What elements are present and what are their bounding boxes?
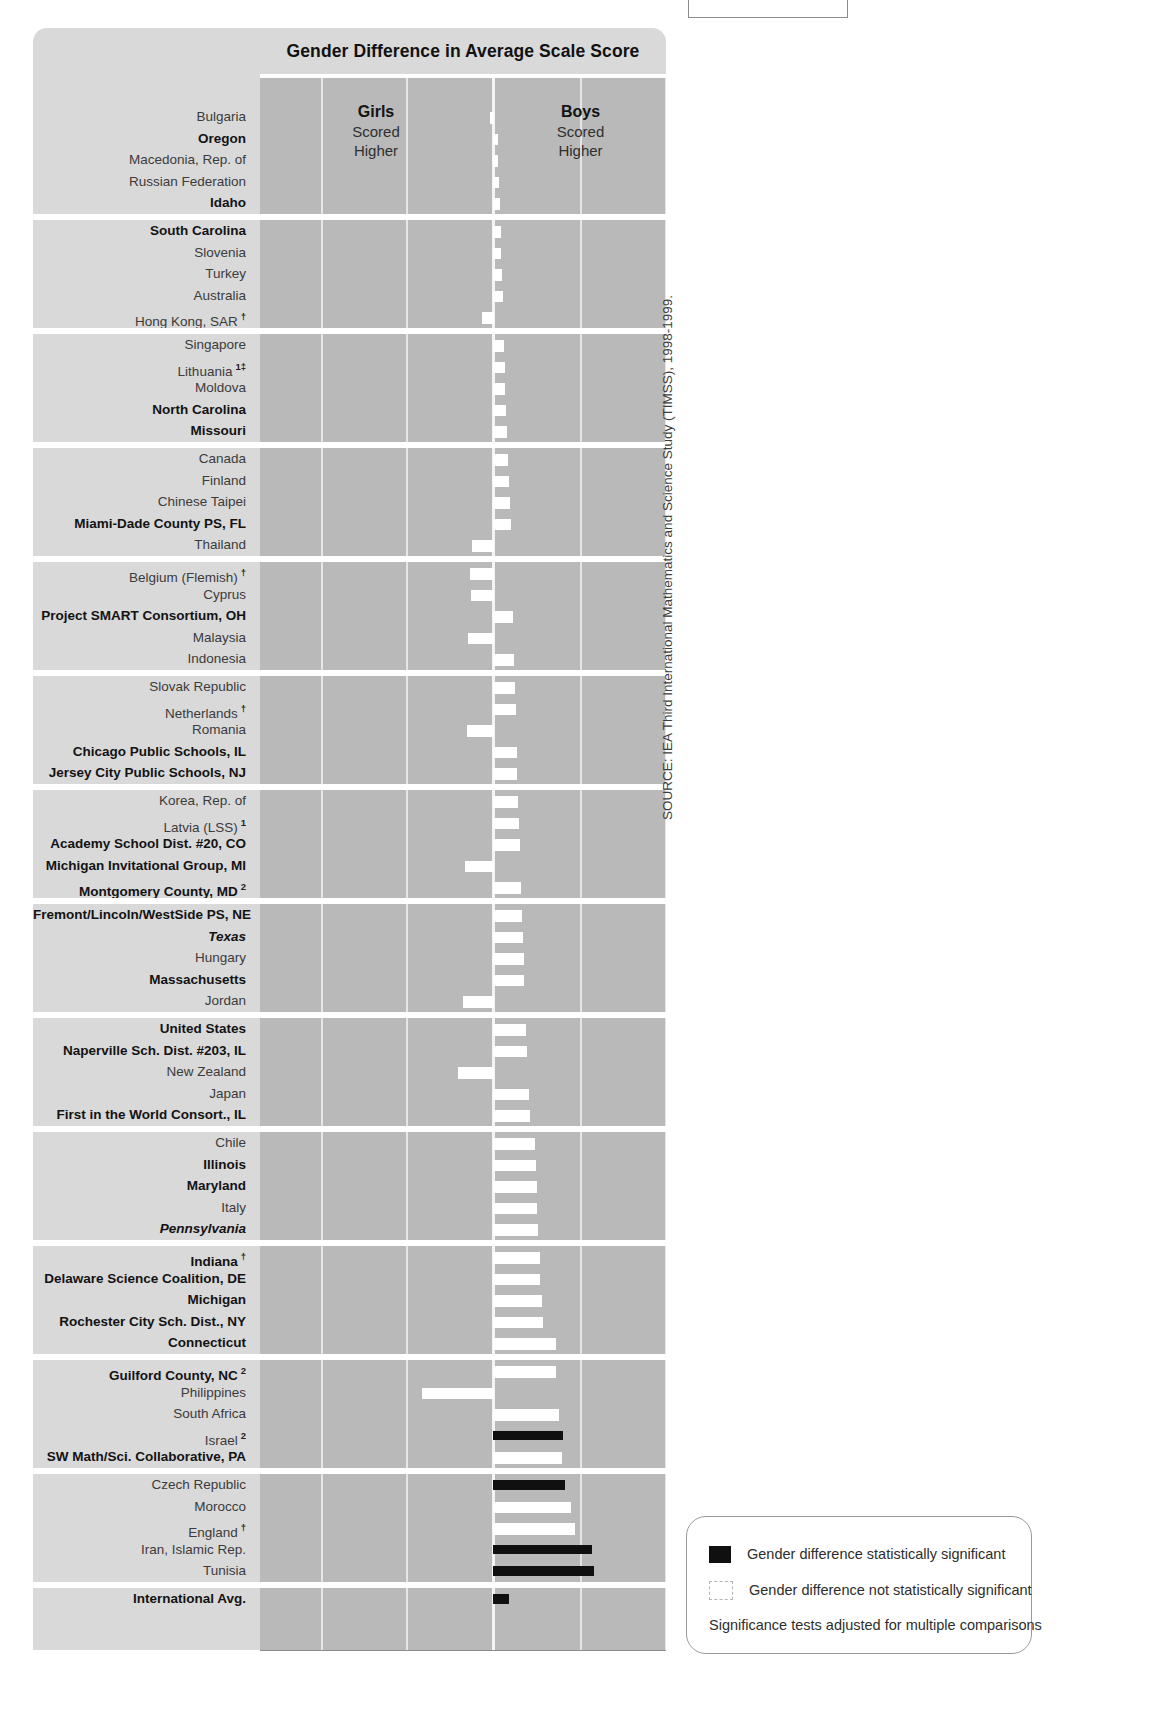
table-row[interactable]: Bulgaria	[33, 106, 666, 128]
table-row[interactable]: Missouri	[33, 420, 666, 442]
row-label: Texas	[33, 926, 246, 948]
table-row[interactable]: Illinois	[33, 1154, 666, 1176]
row-label: Hungary	[33, 947, 246, 969]
table-row[interactable]: Hungary	[33, 947, 666, 969]
table-row[interactable]: Jersey City Public Schools, NJ	[33, 762, 666, 784]
table-row[interactable]: Tunisia	[33, 1560, 666, 1582]
table-row[interactable]: Miami-Dade County PS, FL	[33, 513, 666, 535]
table-row[interactable]: Slovak Republic	[33, 676, 666, 698]
table-row[interactable]: Project SMART Consortium, OH	[33, 605, 666, 627]
table-row[interactable]: Michigan Invitational Group, MI	[33, 855, 666, 877]
table-row[interactable]: North Carolina	[33, 399, 666, 421]
table-row[interactable]: Macedonia, Rep. of	[33, 149, 666, 171]
bar-boys-higher	[493, 1295, 542, 1307]
table-row[interactable]: Pennsylvania	[33, 1218, 666, 1240]
table-row[interactable]: Delaware Science Coalition, DE	[33, 1268, 666, 1290]
row-label: North Carolina	[33, 399, 246, 421]
chart-block: Gender Difference in Average Scale Score…	[33, 28, 666, 1650]
table-row[interactable]: Malaysia	[33, 627, 666, 649]
page-crop-artifact-box	[688, 0, 848, 18]
table-row[interactable]: Connecticut	[33, 1332, 666, 1354]
bar-boys-higher	[493, 1366, 556, 1378]
table-row[interactable]: Australia	[33, 285, 666, 307]
bar-boys-higher	[493, 932, 523, 944]
bar-boys-higher	[493, 383, 505, 395]
table-row[interactable]: First in the World Consort., IL	[33, 1104, 666, 1126]
bar-boys-higher	[493, 155, 498, 167]
table-row[interactable]: Czech Republic	[33, 1474, 666, 1496]
table-row[interactable]: Israel2	[33, 1425, 666, 1447]
row-label: International Avg.	[33, 1588, 246, 1610]
row-label: Chile	[33, 1132, 246, 1154]
table-row[interactable]: Hong Kong, SAR†	[33, 306, 666, 328]
table-row[interactable]: Jordan	[33, 990, 666, 1012]
table-row[interactable]: Finland	[33, 470, 666, 492]
legend-item-not-significant: Gender difference not statistically sign…	[709, 1579, 1032, 1601]
table-row[interactable]: Cyprus	[33, 584, 666, 606]
table-row[interactable]: Texas	[33, 926, 666, 948]
table-row[interactable]: Oregon	[33, 128, 666, 150]
bar-boys-higher	[493, 1480, 565, 1490]
table-row[interactable]: Singapore	[33, 334, 666, 356]
table-row[interactable]: Canada	[33, 448, 666, 470]
row-label: Lithuania1‡	[33, 356, 246, 378]
table-row[interactable]: Chile	[33, 1132, 666, 1154]
table-row[interactable]: Thailand	[33, 534, 666, 556]
table-row[interactable]: Rochester City Sch. Dist., NY	[33, 1311, 666, 1333]
bar-boys-higher	[493, 1338, 556, 1350]
table-row[interactable]: Romania	[33, 719, 666, 741]
table-row[interactable]: Japan	[33, 1083, 666, 1105]
legend-note: Significance tests adjusted for multiple…	[709, 1617, 1042, 1633]
row-label: Rochester City Sch. Dist., NY	[33, 1311, 246, 1333]
table-row[interactable]: Iran, Islamic Rep.	[33, 1539, 666, 1561]
bar-boys-higher	[493, 405, 506, 417]
table-row[interactable]: Michigan	[33, 1289, 666, 1311]
table-row[interactable]: Belgium (Flemish)†	[33, 562, 666, 584]
table-row[interactable]: Moldova	[33, 377, 666, 399]
table-row[interactable]: Lithuania1‡	[33, 356, 666, 378]
footnote-marker: †	[238, 1251, 246, 1262]
footnote-marker: 2	[238, 1365, 246, 1376]
row-label: Indonesia	[33, 648, 246, 670]
table-row[interactable]: Indonesia	[33, 648, 666, 670]
table-row[interactable]: England†	[33, 1517, 666, 1539]
table-row[interactable]: Korea, Rep. of	[33, 790, 666, 812]
bar-girls-higher	[458, 1067, 494, 1079]
table-row[interactable]: Chicago Public Schools, IL	[33, 741, 666, 763]
table-row[interactable]: International Avg.	[33, 1588, 666, 1610]
table-row[interactable]: Slovenia	[33, 242, 666, 264]
table-row[interactable]: Naperville Sch. Dist. #203, IL	[33, 1040, 666, 1062]
table-row[interactable]: South Africa	[33, 1403, 666, 1425]
table-row[interactable]: Maryland	[33, 1175, 666, 1197]
table-row[interactable]: Russian Federation	[33, 171, 666, 193]
table-row[interactable]: United States	[33, 1018, 666, 1040]
row-label: New Zealand	[33, 1061, 246, 1083]
bar-boys-higher	[493, 882, 521, 894]
bar-boys-higher	[493, 1046, 527, 1058]
table-row[interactable]: Academy School Dist. #20, CO	[33, 833, 666, 855]
table-row[interactable]: Morocco	[33, 1496, 666, 1518]
bar-boys-higher	[493, 1545, 592, 1555]
table-row[interactable]: Massachusetts	[33, 969, 666, 991]
table-row[interactable]: Montgomery County, MD2	[33, 876, 666, 898]
table-row[interactable]: Indiana†	[33, 1246, 666, 1268]
bar-boys-higher	[493, 1317, 543, 1329]
table-row[interactable]: Fremont/Lincoln/WestSide PS, NE	[33, 904, 666, 926]
table-row[interactable]: New Zealand	[33, 1061, 666, 1083]
table-row[interactable]: South Carolina	[33, 220, 666, 242]
table-row[interactable]: Turkey	[33, 263, 666, 285]
table-row[interactable]: Chinese Taipei	[33, 491, 666, 513]
bar-boys-higher	[493, 1181, 537, 1193]
table-row[interactable]: Netherlands†	[33, 698, 666, 720]
row-label: Cyprus	[33, 584, 246, 606]
table-row[interactable]: SW Math/Sci. Collaborative, PA	[33, 1446, 666, 1468]
row-label: Romania	[33, 719, 246, 741]
table-row[interactable]: Idaho	[33, 192, 666, 214]
table-row[interactable]: Latvia (LSS)1	[33, 812, 666, 834]
table-row[interactable]: Philippines	[33, 1382, 666, 1404]
row-label: Michigan	[33, 1289, 246, 1311]
table-row[interactable]: Guilford County, NC2	[33, 1360, 666, 1382]
table-row[interactable]: Italy	[33, 1197, 666, 1219]
row-label: South Carolina	[33, 220, 246, 242]
row-label: Czech Republic	[33, 1474, 246, 1496]
